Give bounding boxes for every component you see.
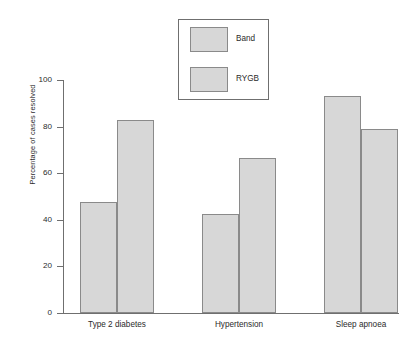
legend-label-band: Band (236, 34, 255, 43)
bar-band-1 (202, 214, 239, 313)
x-axis-category-label: Sleep apnoea (306, 320, 416, 329)
y-axis-tick-label: 40 (18, 215, 52, 224)
y-axis-tick (57, 266, 63, 267)
bar-band-0 (80, 202, 117, 313)
legend: Band RYGB (178, 19, 269, 100)
x-axis-category-label: Type 2 diabetes (62, 320, 172, 329)
y-axis-label: Percentage of cases resolved (28, 40, 37, 230)
y-axis-tick-label: 20 (18, 261, 52, 270)
x-axis-category-label: Hypertension (184, 320, 294, 329)
legend-item-rygb: RYGB (179, 64, 270, 94)
legend-swatch-band (190, 27, 228, 52)
y-axis-tick (57, 220, 63, 221)
y-axis-tick-label: 0 (18, 308, 52, 317)
bar-rygb-2 (361, 129, 398, 313)
y-axis-tick-label: 60 (18, 168, 52, 177)
bar-chart: Percentage of cases resolved 02040608010… (0, 0, 416, 354)
x-axis-line (63, 313, 399, 314)
bar-rygb-1 (239, 158, 276, 313)
y-axis-tick-label: 80 (18, 122, 52, 131)
y-axis-line (63, 80, 64, 314)
y-axis-tick (57, 127, 63, 128)
y-axis-tick-label: 100 (18, 75, 52, 84)
bar-band-2 (324, 96, 361, 313)
legend-item-band: Band (179, 24, 270, 54)
y-axis-tick (57, 80, 63, 81)
legend-swatch-rygb (190, 67, 228, 92)
legend-label-rygb: RYGB (236, 74, 259, 83)
y-axis-tick (57, 173, 63, 174)
bar-rygb-0 (117, 120, 154, 313)
